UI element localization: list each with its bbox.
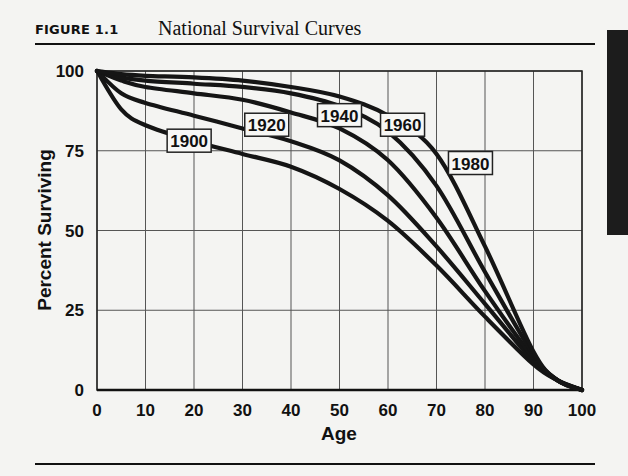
x-tick-label: 80 <box>476 401 495 420</box>
series-label-1900: 1900 <box>167 129 211 152</box>
y-axis-title: Percent Surviving <box>34 149 55 311</box>
series-label-1960: 1960 <box>381 113 425 136</box>
x-tick-label: 0 <box>92 401 101 420</box>
x-tick-label: 70 <box>427 401 446 420</box>
svg-text:1900: 1900 <box>170 132 208 151</box>
y-tick-label: 50 <box>65 222 84 241</box>
x-tick-label: 40 <box>282 401 301 420</box>
series-label-1980: 1980 <box>448 152 492 175</box>
x-tick-label: 60 <box>379 401 398 420</box>
y-tick-label: 0 <box>75 381 84 400</box>
svg-text:1980: 1980 <box>452 155 490 174</box>
x-tick-label: 30 <box>233 401 252 420</box>
svg-text:1920: 1920 <box>248 116 286 135</box>
x-tick-label: 90 <box>524 401 543 420</box>
x-axis-title: Age <box>321 423 357 444</box>
svg-text:1960: 1960 <box>384 116 422 135</box>
survival-chart: 01020304050607080901000255075100 1900192… <box>0 0 628 476</box>
x-tick-label: 100 <box>568 401 596 420</box>
x-tick-label: 50 <box>330 401 349 420</box>
y-tick-label: 25 <box>65 301 84 320</box>
bottom-rule <box>35 463 595 465</box>
svg-text:1940: 1940 <box>321 107 359 126</box>
x-tick-label: 10 <box>136 401 155 420</box>
y-tick-label: 100 <box>56 62 84 81</box>
y-tick-label: 75 <box>65 142 84 161</box>
series-label-1920: 1920 <box>245 113 289 136</box>
series-label-1940: 1940 <box>318 104 362 127</box>
x-tick-label: 20 <box>185 401 204 420</box>
